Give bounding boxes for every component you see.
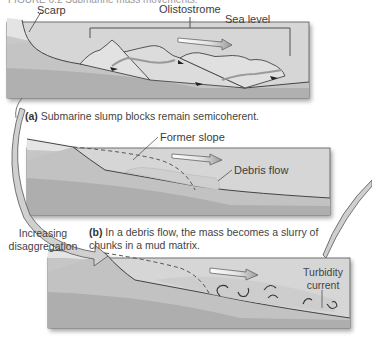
- caption-b-text: In a debris flow, the mass becomes a slu…: [89, 226, 318, 251]
- label-increasing-disaggregation: Increasing disaggregation: [8, 227, 78, 253]
- caption-b-letter: (b): [89, 226, 102, 238]
- turbidity-line1: Turbidity: [298, 266, 348, 279]
- panel-b: [27, 137, 330, 215]
- caption-b: (b) In a debris flow, the mass becomes a…: [89, 226, 339, 252]
- turbidity-line2: current: [298, 279, 348, 292]
- label-olistostrome: Olistostrome: [159, 3, 221, 15]
- caption-a-letter: (a): [25, 110, 38, 122]
- label-scarp: Scarp: [37, 4, 66, 16]
- label-sea-level: Sea level: [225, 13, 270, 25]
- caption-a: (a) Submarine slump blocks remain semico…: [25, 110, 355, 123]
- label-turbidity-current: Turbidity current: [298, 266, 348, 292]
- panel-a: [7, 17, 309, 98]
- side-label-line1: Increasing: [8, 227, 78, 240]
- label-debris-flow: Debris flow: [234, 164, 288, 176]
- label-former-slope: Former slope: [160, 131, 225, 143]
- caption-a-text: Submarine slump blocks remain semicohere…: [41, 110, 259, 122]
- side-label-line2: disaggregation: [8, 240, 78, 253]
